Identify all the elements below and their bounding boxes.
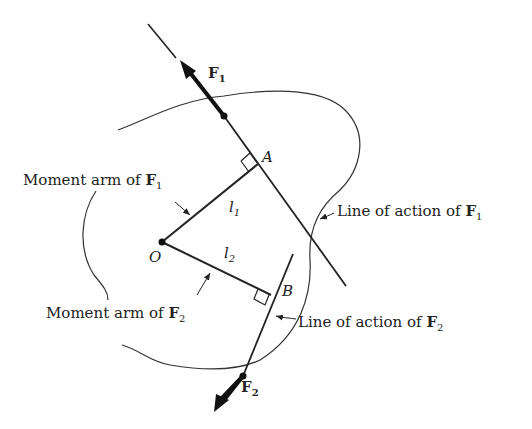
leader-line-of-action-1 — [320, 213, 334, 219]
line-of-action-f2 — [243, 254, 293, 376]
force-f2-label: F2 — [241, 378, 259, 398]
point-o-label: O — [149, 248, 161, 266]
leader-line-of-action-2 — [276, 316, 296, 319]
moment-arm-f1-label: Moment arm of F1 — [23, 171, 162, 191]
point-b-label: B — [281, 282, 293, 300]
arm-l1-label: l1 — [229, 198, 240, 218]
leader-moment-arm-2 — [197, 273, 210, 295]
leader-moment-arm-1 — [175, 202, 190, 215]
origin-point — [159, 239, 166, 246]
moment-arm-diagram: F1 F2 A B O l1 l2 Moment arm of F1 Momen… — [0, 0, 532, 429]
point-a-label: A — [260, 148, 273, 166]
moment-arm-f2-label: Moment arm of F2 — [46, 304, 185, 324]
force-f1-label: F1 — [208, 64, 226, 84]
moment-arm-l2 — [162, 242, 271, 295]
application-point-f1 — [221, 113, 228, 120]
arm-l2-label: l2 — [224, 244, 235, 264]
line-of-action-f1-label: Line of action of F1 — [337, 202, 482, 222]
line-of-action-f2-label: Line of action of F2 — [298, 313, 443, 333]
line-of-action-f1-top — [148, 24, 176, 58]
right-angle-mark-a-2 — [241, 161, 249, 172]
line-of-action-f1 — [224, 116, 346, 286]
body-left-edge — [83, 191, 108, 300]
